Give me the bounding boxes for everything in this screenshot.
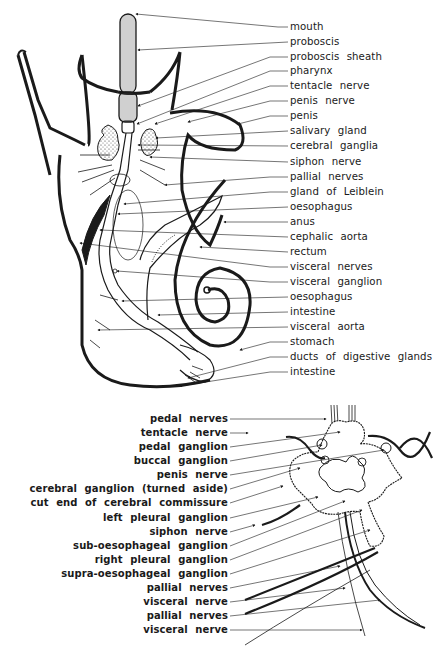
label-cerebral-ganglion-turned-aside: cerebral ganglion (turned aside) (30, 483, 228, 495)
label-pallial-nerves: pallial nerves (290, 171, 363, 183)
label-cephalic-aorta: cephalic aorta (290, 231, 368, 243)
label-visceral-nerve-2: visceral nerve (143, 624, 228, 636)
proboscis-sheath (119, 92, 137, 122)
label-proboscis: proboscis (290, 36, 339, 48)
label-anus: anus (290, 216, 315, 228)
oesophagus (99, 133, 190, 360)
label-pedal-nerves: pedal nerves (150, 413, 228, 425)
salivary-gland-right (141, 129, 158, 156)
label-penis: penis (290, 110, 318, 122)
label-pallial-nerves-lower: pallial nerves (147, 582, 228, 594)
label-right-pleural-ganglion: right pleural ganglion (95, 554, 228, 566)
label-pedal-ganglion: pedal ganglion (139, 441, 228, 453)
label-supra-oesophageal-ganglion: supra-oesophageal ganglion (61, 568, 228, 580)
label-oesophagus: oesophagus (290, 201, 352, 213)
penis-outline (170, 111, 243, 245)
label-left-pleural-ganglion: left pleural ganglion (103, 512, 228, 524)
label-ducts-of-digestive-glands: ducts of digestive glands (290, 351, 432, 363)
label-cut-end-cerebral-commissure: cut end of cerebral commissure (30, 497, 228, 509)
proboscis (120, 14, 136, 94)
siphon-outline (18, 52, 85, 175)
label-cerebral-ganglia: cerebral ganglia (290, 140, 378, 152)
label-gland-of-leiblein: gland of Leiblein (290, 186, 384, 198)
label-visceral-nerve: visceral nerve (143, 596, 228, 608)
rectum (140, 196, 222, 320)
label-siphon-nerve: siphon nerve (290, 156, 361, 168)
label-visceral-aorta: visceral aorta (290, 321, 365, 333)
label-intestine-2: intestine (290, 366, 335, 378)
label-penis-nerve-lower: penis nerve (157, 469, 228, 481)
label-rectum: rectum (290, 246, 327, 258)
label-intestine: intestine (290, 306, 335, 318)
label-proboscis-sheath: proboscis sheath (290, 51, 382, 63)
label-tentacle-nerve-lower: tentacle nerve (141, 427, 228, 439)
label-tentacle-nerve: tentacle nerve (290, 80, 370, 92)
label-salivary-gland: salivary gland (290, 125, 367, 137)
label-pallial-nerves-lower-2: pallial nerves (147, 610, 228, 622)
upper-snail-diagram (18, 14, 250, 387)
label-siphon-nerve-lower: siphon nerve (150, 526, 228, 538)
label-sub-oesophageal-ganglion: sub-oesophageal ganglion (73, 540, 228, 552)
label-buccal-ganglion: buccal ganglion (134, 455, 228, 467)
label-visceral-nerves: visceral nerves (290, 261, 373, 273)
label-penis-nerve: penis nerve (290, 95, 355, 107)
label-pharynx: pharynx (290, 65, 333, 77)
head-right-lobe (150, 52, 180, 110)
body-outline-left (59, 155, 210, 387)
label-oesophagus-2: oesophagus (290, 291, 352, 303)
label-stomach: stomach (290, 336, 334, 348)
label-mouth: mouth (290, 21, 324, 33)
ganglion-mass (290, 421, 402, 547)
label-visceral-ganglion: visceral ganglion (290, 276, 382, 288)
